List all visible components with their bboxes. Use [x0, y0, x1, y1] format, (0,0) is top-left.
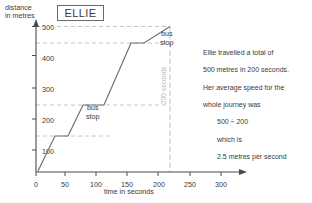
y-ticks: [32, 27, 36, 151]
explanation-line-4: whole journey was: [203, 101, 311, 110]
bus-stop-annotation-2: bus stop: [160, 30, 174, 47]
explanation-text: Ellie travelled a total of 500 metres in…: [203, 40, 311, 171]
gridlines-horizontal: [36, 27, 170, 137]
explanation-line-1: Ellie travelled a total of: [203, 49, 311, 58]
explanation-line-7: 2.5 metres per second: [203, 153, 311, 162]
explanation-line-2: 500 metres in 200 seconds.: [203, 66, 311, 75]
y-axis-arrow: [33, 19, 39, 27]
journey-line: [38, 27, 170, 172]
x-ticks: [36, 172, 221, 176]
explanation-line-6: which is: [203, 136, 311, 145]
explanation-line-3: Her average speed for the: [203, 84, 311, 93]
bus-stop-annotation-1: bus stop: [86, 104, 100, 121]
vertical-200-seconds-label: 200 seconds: [160, 67, 167, 104]
explanation-line-5: 500 ÷ 200: [203, 118, 311, 127]
chart-canvas: distance in metres ELLIE 500 400 300 200…: [0, 0, 312, 203]
